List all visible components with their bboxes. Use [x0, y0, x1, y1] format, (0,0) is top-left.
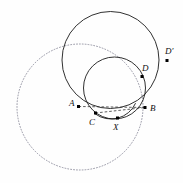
point-B-marker: [144, 106, 147, 109]
point-A-marker: [77, 105, 80, 108]
point-D-marker: [141, 75, 144, 78]
point-label-C: C: [89, 118, 95, 127]
point-label-D: D: [142, 64, 149, 73]
point-X-marker: [116, 117, 119, 120]
medium-solid-circle: [84, 57, 146, 119]
large-solid-circle: [62, 12, 159, 109]
geometry-canvas: [0, 0, 183, 183]
point-label-B: B: [150, 104, 156, 113]
point-label-A: A: [69, 99, 75, 108]
point-C-marker: [94, 112, 97, 115]
point-Dp-marker: [166, 59, 169, 62]
geometry-figure: A B C X D D′: [0, 0, 183, 183]
dashed-chord-A-B: [79, 107, 146, 108]
point-label-D-prime: D′: [165, 47, 173, 56]
point-label-X: X: [113, 123, 119, 132]
